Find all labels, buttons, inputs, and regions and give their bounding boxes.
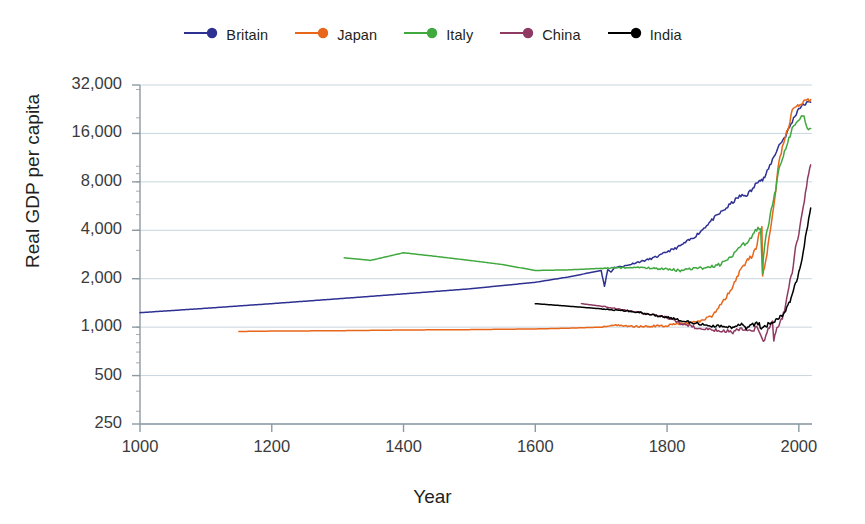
series-line-italy — [344, 116, 810, 274]
chart-container: BritainJapanItalyChinaIndia Real GDP per… — [0, 0, 865, 524]
plot-area — [0, 0, 865, 524]
